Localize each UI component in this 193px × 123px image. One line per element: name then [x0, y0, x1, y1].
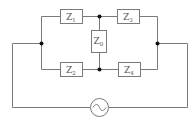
ac-source-icon [91, 99, 109, 117]
node-bottom-middle [98, 68, 102, 72]
bridge-circuit-diagram: Z1 Z3 Z0 Z2 Z4 [0, 0, 193, 123]
node-left [40, 42, 44, 46]
node-top-middle [98, 15, 102, 19]
impedance-z2: Z2 [61, 63, 83, 77]
impedance-z0: Z0 [92, 31, 107, 53]
node-right [156, 42, 160, 46]
impedance-z1: Z1 [61, 10, 83, 24]
wire-top-right [140, 17, 158, 70]
impedance-z4: Z4 [119, 63, 141, 77]
impedance-z3: Z3 [118, 10, 140, 24]
